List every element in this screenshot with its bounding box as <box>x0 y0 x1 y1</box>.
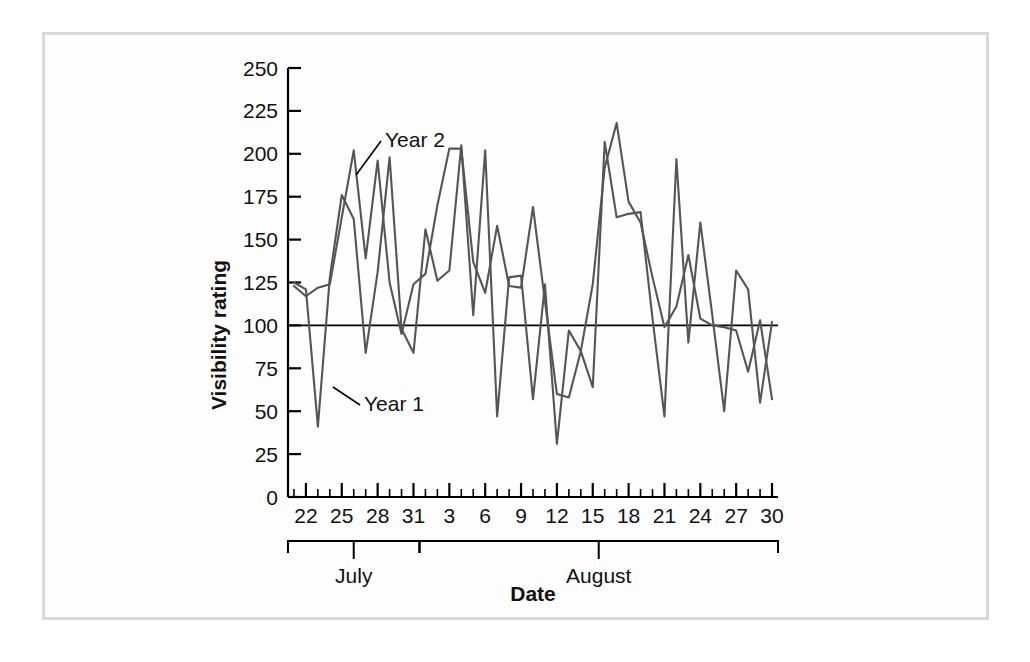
y-axis-tick-label: 150 <box>243 228 278 251</box>
y-axis-tick-label: 75 <box>255 357 278 380</box>
x-axis-tick-label: 25 <box>330 504 353 527</box>
series-label-year-1-leader <box>333 387 360 405</box>
x-axis-tick-label: 6 <box>479 504 491 527</box>
y-axis-tick-label: 0 <box>266 486 278 509</box>
y-axis-tick-label: 225 <box>243 99 278 122</box>
x-axis-tick-label: 21 <box>653 504 676 527</box>
y-axis-tick-label: 250 <box>243 57 278 80</box>
x-axis-tick-label: 12 <box>545 504 568 527</box>
x-axis-tick-labels: 2225283136912151821242730 <box>294 504 783 527</box>
figure-page: Visibility rating 0255075100125150175200… <box>0 0 1030 662</box>
visibility-rating-line-chart: Visibility rating 0255075100125150175200… <box>0 0 1030 662</box>
x-axis-tick-label: 27 <box>724 504 747 527</box>
series-label-year-1: Year 1 <box>364 392 424 415</box>
y-axis-title: Visibility rating <box>207 260 230 410</box>
y-axis-tick-label: 200 <box>243 142 278 165</box>
x-axis-tick-label: 28 <box>366 504 389 527</box>
month-group-labels: JulyAugust <box>335 564 632 587</box>
x-axis-tick-label: 30 <box>760 504 783 527</box>
x-axis-tick-label: 24 <box>689 504 713 527</box>
month-label: August <box>566 564 632 587</box>
series-label-year-2: Year 2 <box>385 128 445 151</box>
y-axis-tick-label: 25 <box>255 443 278 466</box>
month-group-brackets <box>288 541 778 559</box>
x-axis-tick-label: 18 <box>617 504 640 527</box>
x-axis-tick-label: 9 <box>515 504 527 527</box>
series-line-year-2 <box>294 123 772 399</box>
y-axis-tick-label: 100 <box>243 314 278 337</box>
month-label: July <box>335 564 373 587</box>
y-axis-tick-label: 125 <box>243 271 278 294</box>
x-axis-tick-label: 22 <box>294 504 317 527</box>
x-axis-tick-label: 15 <box>581 504 604 527</box>
x-axis-ticks <box>294 483 772 497</box>
y-axis-tick-labels: 0255075100125150175200225250 <box>243 57 278 509</box>
x-axis-title: Date <box>510 582 556 605</box>
x-axis-tick-label: 3 <box>443 504 455 527</box>
y-axis-tick-label: 50 <box>255 400 278 423</box>
x-axis-tick-label: 31 <box>402 504 425 527</box>
y-axis-tick-label: 175 <box>243 185 278 208</box>
